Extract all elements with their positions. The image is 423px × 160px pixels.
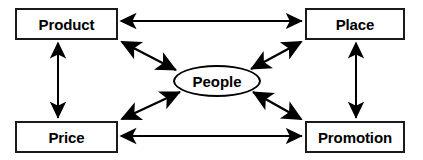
node-place-label: Place — [336, 17, 375, 32]
connector-price-people — [122, 92, 180, 119]
node-place[interactable]: Place — [305, 8, 405, 40]
node-people[interactable]: People — [173, 65, 261, 97]
node-promotion[interactable]: Promotion — [305, 121, 405, 153]
node-price-label: Price — [48, 130, 84, 145]
node-product-label: Product — [39, 17, 95, 32]
connector-promotion-people — [253, 92, 301, 119]
node-product[interactable]: Product — [15, 8, 118, 40]
node-promotion-label: Promotion — [318, 130, 392, 145]
node-people-label: People — [192, 74, 241, 89]
connector-place-people — [251, 42, 301, 69]
connector-product-people — [122, 42, 176, 70]
marketing-mix-diagram: Product Place People Price Promotion — [0, 0, 423, 160]
node-price[interactable]: Price — [15, 121, 118, 153]
